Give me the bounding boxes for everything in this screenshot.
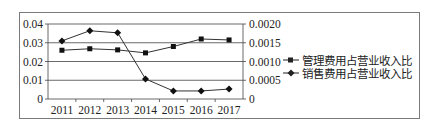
y-tick-label-right: 0 — [249, 93, 255, 105]
y-tick-label-right: 0.0015 — [249, 37, 281, 49]
legend-item-sales-cost: 销售费用占营业收入比 — [283, 66, 412, 79]
x-tick-label: 2014 — [134, 104, 157, 116]
square-marker-icon — [171, 44, 176, 49]
square-marker-icon — [59, 48, 64, 53]
square-marker-icon — [143, 50, 148, 55]
y-tick-label-left: 0.03 — [23, 37, 43, 49]
diamond-marker-icon — [58, 37, 65, 44]
y-tick-label-right: 0.0010 — [249, 56, 281, 68]
legend-label: 销售费用占营业收入比 — [302, 65, 412, 81]
y-tick-label-left: 0.01 — [23, 74, 43, 86]
diamond-marker-icon — [86, 27, 93, 34]
square-marker-icon — [283, 56, 299, 64]
diamond-marker-icon — [198, 87, 205, 94]
x-tick-label: 2016 — [190, 104, 213, 116]
x-tick-label: 2012 — [78, 104, 101, 116]
square-marker-icon — [199, 37, 204, 42]
square-marker-icon — [227, 37, 232, 42]
x-tick-label: 2011 — [51, 104, 74, 116]
square-marker-icon — [87, 46, 92, 51]
diamond-marker-icon — [170, 87, 177, 94]
y-tick-label-right: 0.0020 — [249, 18, 281, 30]
diamond-marker-icon — [142, 75, 149, 82]
x-tick-label: 2015 — [162, 104, 185, 116]
x-tick-label: 2013 — [106, 104, 129, 116]
square-marker-icon — [115, 47, 120, 52]
diamond-marker-icon — [114, 29, 121, 36]
y-tick-label-left: 0 — [37, 93, 43, 105]
diamond-marker-icon — [283, 69, 299, 77]
y-tick-label-left: 0.02 — [23, 56, 43, 68]
diamond-marker-icon — [226, 86, 233, 93]
y-tick-label-right: 0.0005 — [249, 74, 281, 86]
legend: 管理费用占营业收入比 销售费用占营业收入比 — [283, 53, 412, 79]
x-tick-label: 2017 — [218, 104, 241, 116]
y-tick-label-left: 0.04 — [23, 18, 43, 30]
